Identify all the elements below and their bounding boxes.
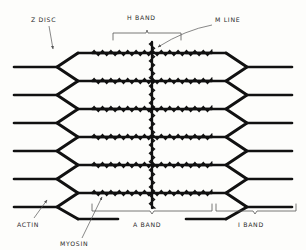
label-h-band: H BAND xyxy=(127,14,156,21)
label-a-band: A BAND xyxy=(133,221,161,228)
z-disc-right xyxy=(226,53,247,219)
m-line xyxy=(150,42,155,208)
filament-lattice xyxy=(14,42,292,219)
sarcomere-diagram: Z DISC H BAND M LINE ACTIN MYOSIN A BAND… xyxy=(0,0,306,250)
label-actin: ACTIN xyxy=(17,221,39,228)
label-myosin: MYOSIN xyxy=(60,240,88,247)
actin-arrow xyxy=(34,200,47,218)
label-m-line: M LINE xyxy=(215,16,240,23)
label-i-band: I BAND xyxy=(238,221,264,228)
z-disc-left xyxy=(57,53,78,219)
m-line-arrow xyxy=(158,25,212,47)
h-band-bracket xyxy=(113,30,181,40)
i-band-bracket xyxy=(216,204,296,214)
z-disc-arrow xyxy=(49,26,53,49)
myosin-arrow xyxy=(82,197,102,238)
label-z-disc: Z DISC xyxy=(31,16,56,23)
label-group: Z DISC H BAND M LINE ACTIN MYOSIN A BAND… xyxy=(17,14,264,247)
